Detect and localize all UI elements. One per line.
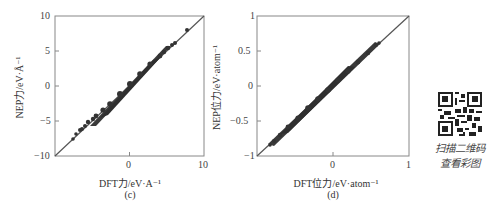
scatter-points-d bbox=[268, 41, 381, 147]
ytick-d-2: 0 bbox=[248, 81, 253, 91]
xtick-d-1: 1 bbox=[406, 160, 411, 170]
ytick-c-4: −10 bbox=[34, 151, 50, 161]
qr-code-icon[interactable] bbox=[438, 92, 482, 136]
ytick-d-3: −0.5 bbox=[230, 116, 248, 126]
ytick-c-3: −5 bbox=[40, 116, 51, 126]
ytick-d-1: 0.5 bbox=[238, 46, 251, 56]
xlabel-c: DFT力/eV·A⁻¹ bbox=[80, 175, 180, 190]
panel-d: 1 0.5 0 −0.5 −1 0 1 NEP位力/eV·atom⁻¹ DFT位… bbox=[200, 0, 420, 213]
xtick-d-0: 0 bbox=[330, 160, 335, 170]
xlabel-d: DFT位力/eV·atom⁻¹ bbox=[276, 175, 396, 190]
ytick-c-1: 5 bbox=[45, 46, 50, 56]
scatter-points-c bbox=[71, 28, 189, 141]
qr-caption-line2: 查看彩图 bbox=[425, 156, 495, 171]
xtick-c-0: 0 bbox=[126, 160, 131, 170]
ylabel-d: NEP位力/eV·atom⁻¹ bbox=[208, 33, 223, 143]
ytick-d-4: −1 bbox=[244, 151, 255, 161]
ylabel-c: NEP力/eV·Å⁻¹ bbox=[11, 48, 26, 128]
ytick-d-0: 1 bbox=[250, 11, 255, 21]
caption-c: (c) bbox=[120, 189, 140, 200]
qr-caption-line1: 扫描二维码 bbox=[425, 141, 495, 156]
qr-caption: 扫描二维码 查看彩图 bbox=[425, 141, 495, 171]
ytick-c-2: 0 bbox=[45, 81, 50, 91]
ytick-c-0: 10 bbox=[40, 11, 50, 21]
caption-d: (d) bbox=[323, 189, 343, 200]
panel-c: 10 5 0 −5 −10 0 10 NEP力/eV·Å⁻¹ DFT力/eV·A… bbox=[0, 0, 210, 213]
